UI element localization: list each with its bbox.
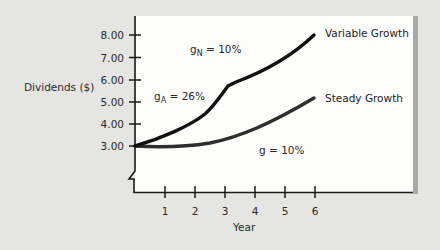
x-tick-label: 1: [155, 205, 175, 217]
y-tick-label: 7.00: [80, 52, 124, 64]
y-tick-label: 4.00: [80, 118, 124, 130]
gn-symbol: g: [190, 43, 197, 55]
y-axis-title: Dividends ($): [24, 81, 94, 93]
gn-annotation: gN = 10%: [190, 43, 241, 60]
ga-value: = 26%: [166, 90, 205, 102]
x-tick-label: 6: [305, 205, 325, 217]
steady-growth-label: Steady Growth: [325, 92, 403, 104]
y-tick-label: 3.00: [80, 140, 124, 152]
x-tick-label: 2: [185, 205, 205, 217]
variable-growth-label: Variable Growth: [325, 27, 409, 39]
x-tick-label: 3: [215, 205, 235, 217]
g-steady-annotation: g = 10%: [259, 144, 304, 156]
y-tick-label: 5.00: [80, 96, 124, 108]
x-tick-label: 5: [275, 205, 295, 217]
chart-figure: 8.00 7.00 6.00 5.00 4.00 3.00 1 2 3 4 5 …: [0, 0, 440, 250]
x-axis-title: Year: [233, 221, 255, 233]
gn-value: = 10%: [203, 43, 242, 55]
x-tick-label: 4: [245, 205, 265, 217]
ga-symbol: g: [154, 90, 161, 102]
ga-annotation: gA = 26%: [154, 90, 205, 107]
y-tick-label: 8.00: [80, 29, 124, 41]
